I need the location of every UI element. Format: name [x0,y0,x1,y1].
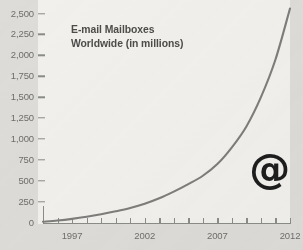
data-line-layer [0,0,303,250]
series-line-email-mailboxes [43,8,290,221]
chart-screenshot: 02505007501,0001,2501,5001,7502,0002,250… [0,0,303,250]
